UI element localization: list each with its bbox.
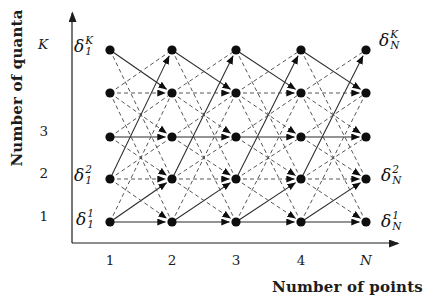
- trellis-node: [167, 132, 176, 141]
- y-tick-label-K: K: [37, 36, 49, 52]
- trellis-edge: [301, 56, 363, 179]
- delta-glyph: δ: [379, 32, 389, 49]
- x-axis-title: Number of points: [272, 278, 423, 296]
- delta-glyph: δ: [76, 211, 86, 228]
- delta-1-2-label: δ21: [74, 167, 92, 187]
- delta-1-1-label: δ11: [76, 211, 94, 231]
- trellis-node: [105, 45, 114, 54]
- trellis-node: [231, 45, 240, 54]
- trellis-edge: [110, 50, 167, 89]
- delta-subscript: 1: [87, 219, 94, 230]
- trellis-edge: [110, 93, 167, 133]
- delta-subscript: N: [392, 221, 401, 232]
- trellis-node: [105, 174, 114, 183]
- trellis-edge: [110, 56, 169, 179]
- trellis-node: [296, 88, 305, 97]
- trellis-node: [296, 217, 305, 226]
- delta-glyph: δ: [381, 213, 391, 230]
- trellis-edge: [301, 50, 361, 89]
- trellis-node: [361, 45, 370, 54]
- trellis-edge: [172, 183, 231, 222]
- trellis-node: [231, 88, 240, 97]
- x-tick-label-3: 3: [232, 252, 241, 268]
- delta-subscript: N: [390, 40, 399, 51]
- trellis-edge: [301, 183, 361, 222]
- y-tick-label-2: 2: [39, 165, 48, 181]
- trellis-edge: [236, 179, 296, 218]
- delta-glyph: δ: [74, 167, 84, 184]
- delta-scripts: 1N: [392, 210, 401, 233]
- delta-N-2-label: δ2N: [381, 167, 401, 187]
- trellis-node: [361, 88, 370, 97]
- trellis-node: [105, 132, 114, 141]
- trellis-edge: [172, 50, 231, 89]
- trellis-figure: 1234N123K Number of quanta Number of poi…: [0, 0, 440, 308]
- delta-scripts: KN: [390, 29, 399, 52]
- delta-scripts: 21: [85, 164, 92, 187]
- trellis-edge: [236, 137, 296, 175]
- trellis-node: [361, 174, 370, 183]
- trellis-node: [296, 174, 305, 183]
- trellis-node: [361, 132, 370, 141]
- trellis-node: [167, 45, 176, 54]
- trellis-edge: [236, 183, 296, 222]
- trellis-edge: [301, 179, 361, 218]
- trellis-node: [361, 217, 370, 226]
- trellis-node: [167, 88, 176, 97]
- trellis-node: [167, 174, 176, 183]
- x-tick-label-N: N: [359, 252, 373, 268]
- y-tick-label-3: 3: [39, 123, 48, 139]
- trellis-edge: [172, 137, 231, 175]
- trellis-node: [231, 174, 240, 183]
- trellis-node: [167, 217, 176, 226]
- delta-subscript: 1: [85, 46, 93, 57]
- trellis-edge: [110, 137, 167, 175]
- trellis-node: [296, 45, 305, 54]
- delta-N-K-label: δKN: [379, 32, 399, 52]
- x-tick-label-1: 1: [106, 252, 115, 268]
- trellis-edge: [110, 179, 167, 218]
- delta-subscript: 1: [85, 175, 92, 186]
- delta-N-1-label: δ1N: [381, 213, 401, 233]
- delta-glyph: δ: [74, 38, 84, 55]
- delta-subscript: N: [392, 175, 401, 186]
- delta-glyph: δ: [381, 167, 391, 184]
- delta-1-K-label: δK1: [74, 38, 93, 58]
- trellis-canvas: 1234N123K: [0, 0, 440, 308]
- trellis-node: [105, 88, 114, 97]
- trellis-node: [231, 132, 240, 141]
- trellis-edge: [236, 93, 296, 133]
- trellis-edge: [172, 56, 233, 179]
- trellis-edge: [110, 183, 167, 222]
- trellis-edge: [301, 93, 361, 133]
- trellis-edge: [301, 137, 361, 175]
- trellis-edge: [236, 56, 298, 179]
- trellis-node: [105, 217, 114, 226]
- trellis-edge: [236, 50, 296, 89]
- trellis-node: [231, 217, 240, 226]
- y-axis-title: Number of quanta: [8, 9, 26, 166]
- delta-scripts: 2N: [392, 164, 401, 187]
- y-tick-label-1: 1: [39, 208, 48, 224]
- delta-scripts: 11: [87, 208, 94, 231]
- trellis-node: [296, 132, 305, 141]
- delta-scripts: K1: [85, 35, 93, 58]
- x-tick-label-4: 4: [297, 252, 306, 268]
- trellis-edge: [172, 179, 231, 218]
- trellis-edge: [172, 93, 231, 133]
- x-tick-label-2: 2: [168, 252, 177, 268]
